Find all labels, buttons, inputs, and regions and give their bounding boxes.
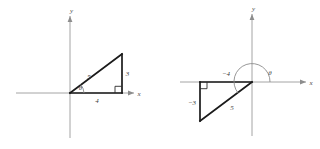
right-angle-marker [200, 82, 207, 89]
hypotenuse-label: 5 [87, 73, 91, 81]
angle-label-theta: θ [79, 84, 83, 92]
y-axis-label: y [251, 5, 256, 13]
x-axis-label: x [308, 79, 313, 87]
angle-label-theta: θ [268, 69, 272, 77]
y-axis-label: y [69, 7, 74, 15]
figure-root: y x θ 5 3 4 y x [0, 0, 320, 149]
panel-quadrant-three: y x θ −4 −3 5 [160, 0, 320, 149]
horizontal-leg-label: 4 [95, 97, 99, 105]
x-axis-label: x [136, 90, 141, 98]
hypotenuse-label: 5 [230, 104, 234, 112]
horizontal-leg-label: −4 [222, 70, 231, 78]
vertical-leg-label: −3 [188, 99, 197, 107]
y-axis-arrowhead [68, 16, 73, 22]
vertical-leg-label: 3 [125, 70, 130, 78]
panel-quadrant-one: y x θ 5 3 4 [0, 0, 160, 149]
y-axis-arrowhead [250, 14, 255, 20]
x-axis-arrowhead [300, 80, 306, 85]
right-angle-marker [115, 86, 122, 93]
x-axis-arrowhead [128, 91, 134, 96]
triangle-hypotenuse [200, 82, 252, 121]
